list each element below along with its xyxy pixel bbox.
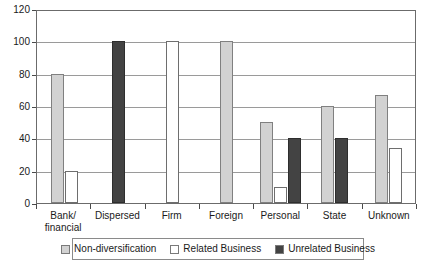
legend-swatch-icon	[170, 245, 179, 254]
y-axis-tick-label: 0	[0, 199, 30, 209]
y-axis-tick-label: 60	[0, 102, 30, 112]
legend-label: Related Business	[183, 244, 261, 254]
bar	[166, 41, 179, 203]
x-axis-category-label: Unknown	[362, 210, 416, 234]
bar-group	[91, 11, 145, 203]
bar-group	[253, 11, 307, 203]
bar	[375, 95, 388, 203]
y-axis-tick-label: 100	[0, 37, 30, 47]
legend-item[interactable]: Non-diversification	[61, 244, 156, 254]
x-axis-category-label-line: financial	[36, 222, 90, 234]
x-axis-category-label: Personal	[253, 210, 307, 234]
x-axis-category-label-line: Firm	[145, 210, 199, 222]
bar	[260, 122, 273, 203]
x-axis-category-label: Foreign	[199, 210, 253, 234]
legend-swatch-icon	[61, 245, 70, 254]
x-axis-tick-mark	[307, 204, 308, 209]
x-axis-category-label-line: Unknown	[362, 210, 416, 222]
legend-item[interactable]: Unrelated Business	[275, 244, 375, 254]
legend-item[interactable]: Related Business	[170, 244, 261, 254]
bar	[389, 148, 402, 203]
x-axis-tick-mark	[416, 204, 417, 209]
legend-label: Non-diversification	[74, 244, 156, 254]
x-axis-tick-mark	[90, 204, 91, 209]
plot-area	[36, 10, 416, 204]
x-axis-labels: Bank/financialDispersedFirmForeignPerson…	[36, 210, 416, 234]
bar-group	[37, 11, 91, 203]
y-axis-tick-label: 120	[0, 5, 30, 15]
bar-group	[307, 11, 361, 203]
x-axis-category-label: Dispersed	[90, 210, 144, 234]
bar	[288, 138, 301, 203]
bar-group	[145, 11, 199, 203]
x-axis-category-label: Bank/financial	[36, 210, 90, 234]
bar	[65, 171, 78, 203]
bar	[51, 74, 64, 203]
legend-swatch-icon	[275, 245, 284, 254]
x-axis-tick-mark	[145, 204, 146, 209]
bar	[321, 106, 334, 203]
bar	[220, 41, 233, 203]
x-axis-category-label-line: Personal	[253, 210, 307, 222]
bar-groups	[37, 11, 415, 203]
y-axis-tick-label: 40	[0, 134, 30, 144]
x-axis-tick-mark	[362, 204, 363, 209]
bar-chart: 120100806040200 Bank/financialDispersedF…	[0, 0, 432, 274]
y-axis-tick-label: 20	[0, 167, 30, 177]
chart-legend: Non-diversificationRelated BusinessUnrel…	[72, 238, 364, 260]
bar	[274, 187, 287, 203]
bar	[335, 138, 348, 203]
x-axis-category-label-line: Dispersed	[90, 210, 144, 222]
x-axis-tick-mark	[36, 204, 37, 209]
bar-group	[199, 11, 253, 203]
x-axis-tick-mark	[253, 204, 254, 209]
bar	[112, 41, 125, 203]
x-axis-category-label-line: Bank/	[36, 210, 90, 222]
x-axis-category-label-line: State	[307, 210, 361, 222]
bar-group	[361, 11, 415, 203]
y-axis-tick-label: 80	[0, 70, 30, 80]
legend-label: Unrelated Business	[288, 244, 375, 254]
x-axis-tick-mark	[199, 204, 200, 209]
x-axis-category-label: Firm	[145, 210, 199, 234]
x-axis-category-label-line: Foreign	[199, 210, 253, 222]
x-axis-category-label: State	[307, 210, 361, 234]
